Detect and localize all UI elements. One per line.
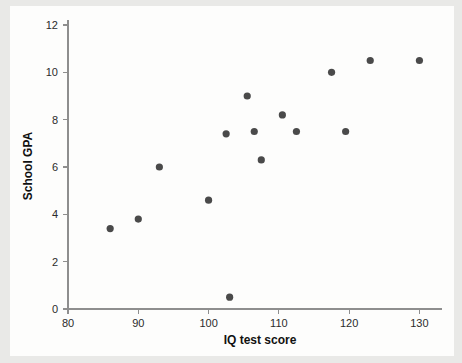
data-point [328, 69, 335, 76]
y-tick-label: 2 [52, 256, 58, 268]
figure-container: 8090100110120130 024681012 IQ test score… [0, 0, 462, 363]
y-axis: 024681012 [46, 19, 68, 315]
data-point [205, 197, 212, 204]
plot-card: 8090100110120130 024681012 IQ test score… [10, 6, 454, 356]
data-point [342, 128, 349, 135]
data-point [107, 225, 114, 232]
x-tick-label: 80 [62, 317, 74, 329]
y-axis-title: School GPA [21, 131, 35, 200]
x-axis: 8090100110120130 [62, 309, 442, 329]
y-tick-label: 12 [46, 19, 58, 31]
data-point [367, 57, 374, 64]
y-tick-label: 10 [46, 66, 58, 78]
x-tick-label: 90 [132, 317, 144, 329]
x-axis-title: IQ test score [224, 333, 297, 347]
data-point [226, 294, 233, 301]
plot-area [107, 57, 423, 301]
data-point [156, 163, 163, 170]
y-tick-label: 4 [52, 208, 58, 220]
y-tick-label: 6 [52, 161, 58, 173]
y-tick-label: 8 [52, 114, 58, 126]
x-tick-label: 110 [270, 317, 288, 329]
scatter-chart: 8090100110120130 024681012 IQ test score… [10, 6, 454, 356]
x-tick-label: 120 [340, 317, 358, 329]
data-point [258, 156, 265, 163]
x-tick-label: 100 [199, 317, 217, 329]
y-tick-label: 0 [52, 303, 58, 315]
x-tick-label: 130 [410, 317, 428, 329]
data-point [279, 111, 286, 118]
data-point [244, 92, 251, 99]
data-point [251, 128, 258, 135]
data-point [223, 130, 230, 137]
data-point [416, 57, 423, 64]
data-point [135, 215, 142, 222]
data-point [293, 128, 300, 135]
